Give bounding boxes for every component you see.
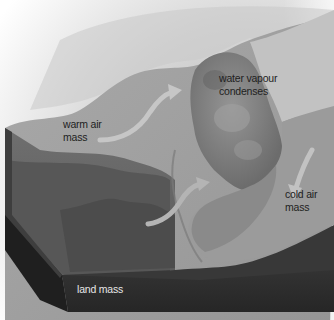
water-vapour-label-line2: condenses <box>219 85 277 98</box>
water-vapour-label-line1: water vapour <box>219 72 277 85</box>
land-mass-label: land mass <box>77 283 123 296</box>
weather-front-diagram <box>0 0 334 320</box>
cold-air-label-line1: cold air <box>285 188 317 201</box>
warm-air-mass-label: warm air mass <box>63 118 102 144</box>
water-vapour-label: water vapour condenses <box>219 72 277 98</box>
cold-air-mass-label: cold air mass <box>285 188 317 214</box>
warm-air-label-line1: warm air <box>63 118 102 131</box>
cloud-highlight <box>214 104 250 132</box>
land-mass-label-text: land mass <box>77 283 123 296</box>
warm-air-label-line2: mass <box>63 131 102 144</box>
front-face-wave <box>60 199 175 272</box>
cloud-highlight-lower <box>234 140 262 160</box>
cold-air-label-line2: mass <box>285 201 317 214</box>
